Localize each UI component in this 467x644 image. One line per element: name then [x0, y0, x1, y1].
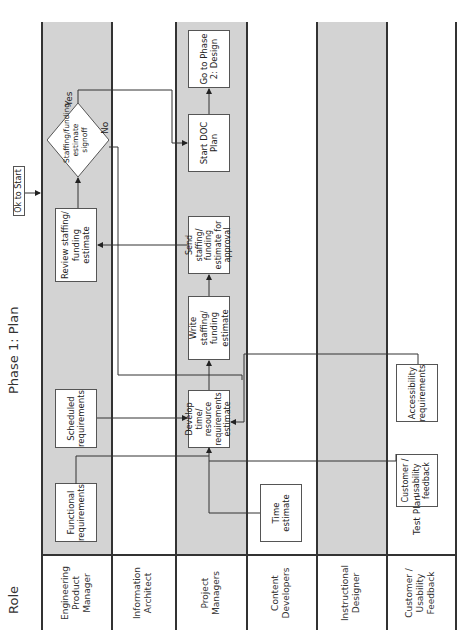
test-plan-label: Test Plan [412, 490, 422, 540]
develop-estimate-box: Develop time/ resource requirements esti… [188, 390, 230, 448]
role-label: Instructional Designer [316, 556, 386, 630]
lane-divider [41, 22, 43, 630]
role-label: Project Managers [175, 556, 246, 630]
lane-divider [246, 22, 248, 630]
functional-requirements-box: Functional requirements [55, 483, 97, 542]
decision-yes-label: Yes [64, 91, 74, 106]
signoff-decision-diamond: Staffing/funding estimate signoff [47, 103, 109, 177]
role-label: Content Developers [246, 556, 316, 630]
write-estimate-box: Write staffing/ funding estimate [188, 296, 230, 360]
lane-instructional-designer [316, 22, 386, 630]
lane-information-architect [111, 22, 175, 630]
role-label: Customer / Usability Feedback [386, 556, 455, 630]
send-estimate-box: Send staffing/ funding estimate for appr… [188, 216, 230, 274]
role-header: Role [6, 586, 21, 614]
start-doc-plan-box: Start DOC Plan [188, 114, 230, 172]
lane-divider [111, 22, 113, 630]
review-estimate-box: Review staffing/ funding estimate [55, 208, 97, 282]
scheduled-requirements-box: Scheduled requirements [55, 389, 97, 448]
accessibility-requirements-box: Accessibility requirements [396, 364, 438, 422]
ok-to-start-box: Ok to Start [13, 166, 25, 216]
decision-label: Staffing/funding estimate signoff [62, 117, 89, 163]
decision-no-label: No [100, 122, 110, 134]
lane-divider [316, 22, 318, 630]
lane-divider [386, 22, 388, 630]
role-label: Engineering Product Manager [41, 556, 111, 630]
time-estimate-box: Time estimate [260, 484, 302, 542]
role-label: Information Architect [111, 556, 175, 630]
lane-divider [455, 22, 457, 630]
swimlane-diagram: Phase 1: Plan Role Ok to Start Engineeri… [0, 0, 467, 644]
diagram-title: Phase 1: Plan [6, 307, 21, 394]
lane-divider [175, 22, 177, 630]
go-to-phase2-box: Go to Phase 2: Design [188, 30, 230, 88]
